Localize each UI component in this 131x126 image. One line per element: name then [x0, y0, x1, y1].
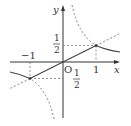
x-axis-label: x	[114, 64, 120, 75]
tick-label-x-pos-one: 1	[93, 64, 99, 75]
fraction-denominator: 2	[54, 45, 60, 55]
fraction-numerator: 1	[74, 68, 80, 78]
y-axis-label: y	[52, 4, 59, 15]
origin-label: O	[64, 64, 72, 75]
y-axis-arrow-icon	[61, 5, 65, 11]
tick-label-y-half: 1 2	[53, 33, 60, 55]
point-1-half	[95, 44, 98, 47]
tick-label-y-neg-half: 1 2	[73, 68, 80, 90]
fraction-denominator: 2	[74, 80, 80, 90]
fraction-numerator: 1	[54, 33, 60, 43]
function-graph: y x O −1 1 1 2 1 2	[0, 0, 131, 126]
point-neg1-neg-half	[29, 77, 32, 80]
tick-label-x-neg-one: −1	[21, 50, 36, 61]
